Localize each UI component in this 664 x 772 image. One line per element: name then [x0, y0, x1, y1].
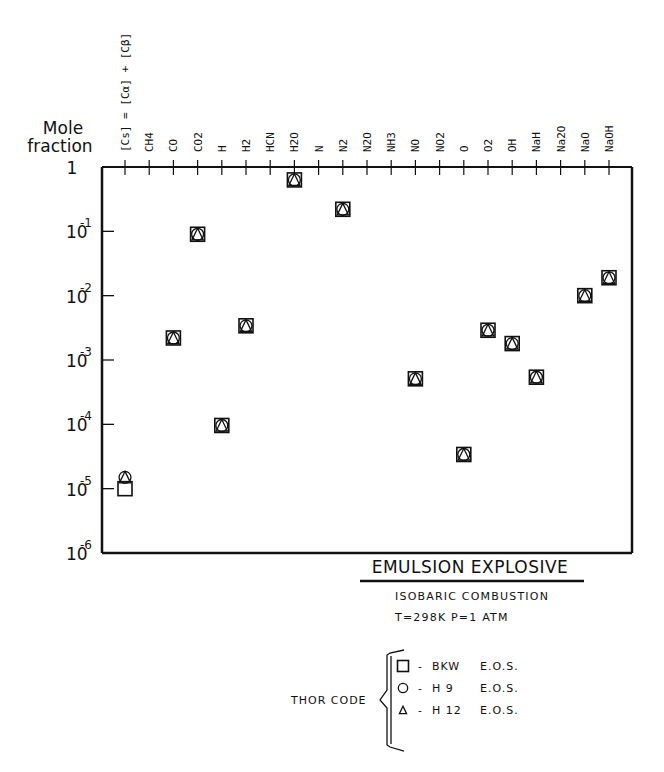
y-tick-exponent: -3 — [80, 345, 92, 359]
category-label: NO — [409, 139, 422, 152]
y-tick-exponent: -1 — [80, 216, 92, 230]
category-label: N — [313, 145, 326, 152]
legend-entry: -H 12E.O.S. — [399, 704, 518, 717]
circle-marker-icon — [337, 203, 349, 215]
legend-code: H 9 — [432, 682, 454, 695]
category-label: NO2 — [434, 132, 447, 152]
category-label: NaO — [579, 132, 592, 152]
circle-marker-icon — [458, 449, 470, 461]
circle-marker-icon — [398, 683, 407, 692]
circle-marker-icon — [216, 420, 228, 432]
circle-marker-icon — [409, 373, 421, 385]
data-point — [530, 371, 542, 383]
category-label: H — [216, 145, 229, 152]
x-axis-category-labels: [Cs] = [Cα] + [Cβ]CH4COCO2HH2HCNH2ONN2N2… — [119, 33, 616, 152]
data-point — [216, 420, 228, 432]
category-label: CO — [167, 139, 180, 152]
triangle-marker-icon — [399, 706, 406, 713]
y-tick-exponent: -6 — [80, 538, 92, 552]
category-label: Na2O — [555, 126, 568, 153]
data-point — [192, 228, 204, 240]
plot-frame — [102, 167, 632, 553]
legend-code: H 12 — [432, 704, 462, 717]
y-tick-exponent: -2 — [80, 281, 92, 295]
y-tick-exponent: -5 — [80, 474, 92, 488]
data-point — [409, 373, 421, 385]
legend-code: BKW — [432, 660, 460, 673]
circle-marker-icon — [240, 320, 252, 332]
legend-entry: -H 9E.O.S. — [398, 682, 518, 695]
legend: THOR CODE -BKWE.O.S.-H 9E.O.S.-H 12E.O.S… — [290, 650, 519, 751]
category-label: H2O — [288, 132, 301, 152]
legend-eos: E.O.S. — [480, 682, 519, 695]
data-point — [240, 320, 252, 332]
category-label: HCN — [264, 132, 277, 152]
y-axis-ticks: 110-110-210-310-410-510-6 — [66, 158, 114, 564]
category-label: NaOH — [603, 126, 616, 153]
legend-dash: - — [418, 704, 423, 717]
data-point — [506, 338, 518, 350]
data-point — [603, 272, 615, 284]
x-axis-category-ticks — [125, 160, 609, 175]
circle-marker-icon — [482, 324, 494, 336]
circle-marker-icon — [506, 338, 518, 350]
circle-marker-icon — [579, 290, 591, 302]
category-label: CO2 — [192, 132, 205, 152]
category-label: CH4 — [143, 132, 156, 152]
category-label: N2 — [337, 139, 350, 152]
mole-fraction-chart: Mole fraction 110-110-210-310-410-510-6 … — [0, 0, 664, 772]
subtitle-conditions: T=298K P=1 ATM — [394, 611, 509, 624]
square-marker-icon — [398, 661, 409, 672]
data-point — [482, 324, 494, 336]
legend-eos: E.O.S. — [480, 704, 519, 717]
subtitle-combustion: ISOBARIC COMBUSTION — [395, 590, 549, 603]
category-label: NH3 — [385, 132, 398, 152]
category-label: N2O — [361, 132, 374, 152]
legend-dash: - — [418, 660, 423, 673]
category-label: O — [458, 145, 471, 152]
y-tick-exponent: -4 — [80, 409, 92, 423]
circle-marker-icon — [530, 371, 542, 383]
circle-marker-icon — [288, 174, 300, 186]
y-tick-label: 1 — [67, 158, 78, 178]
y-axis-label-line2: fraction — [27, 136, 92, 156]
circle-marker-icon — [192, 228, 204, 240]
category-label: [Cs] = [Cα] + [Cβ] — [119, 33, 132, 152]
data-point — [288, 174, 300, 186]
circle-marker-icon — [603, 272, 615, 284]
legend-eos: E.O.S. — [480, 660, 519, 673]
data-point — [458, 449, 470, 461]
chart-title: EMULSION EXPLOSIVE — [372, 557, 569, 577]
category-label: OH — [506, 139, 519, 152]
legend-dash: - — [418, 682, 423, 695]
data-point — [337, 203, 349, 215]
y-axis-label-line1: Mole — [43, 118, 83, 138]
category-label: H2 — [240, 139, 253, 152]
legend-brace — [380, 650, 404, 751]
circle-marker-icon — [167, 332, 179, 344]
data-point — [167, 332, 179, 344]
legend-group-label: THOR CODE — [290, 694, 367, 707]
category-label: NaH — [530, 132, 543, 152]
category-label: O2 — [482, 139, 495, 152]
legend-entry: -BKWE.O.S. — [398, 660, 519, 673]
data-points — [118, 173, 616, 496]
data-point — [579, 290, 591, 302]
